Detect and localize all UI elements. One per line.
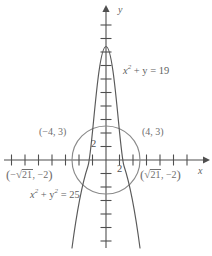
x-axis	[4, 156, 210, 163]
y-axis-arrowhead	[102, 5, 109, 12]
graph-figure: y x 2 2 x2 + y = 19 x2 + y2 = 25 (−4, 3)…	[0, 0, 212, 256]
x-axis-arrowhead	[203, 156, 210, 163]
coordinate-plane-svg	[0, 0, 212, 256]
